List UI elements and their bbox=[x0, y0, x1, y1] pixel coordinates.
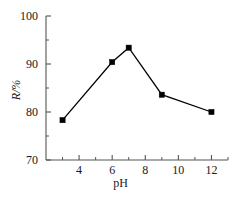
y-tick-label: 70 bbox=[0, 154, 38, 166]
data-series-line bbox=[63, 48, 212, 120]
svg-text:R/%: R/% bbox=[9, 80, 23, 102]
data-point-marker bbox=[110, 59, 115, 64]
x-tick-label: 12 bbox=[191, 164, 231, 176]
data-point-marker bbox=[209, 109, 214, 114]
y-tick-label: 100 bbox=[0, 10, 38, 22]
data-point-marker bbox=[159, 92, 164, 97]
data-series-markers bbox=[60, 45, 214, 123]
data-point-marker bbox=[60, 118, 65, 123]
x-axis-major-ticks bbox=[79, 155, 211, 160]
chart-figure: 708090100 4681012 R/% pH bbox=[0, 0, 241, 198]
x-axis-title: pH bbox=[0, 177, 241, 189]
y-axis-title: R/% bbox=[8, 60, 28, 120]
data-point-marker bbox=[126, 45, 131, 50]
axes-group bbox=[46, 16, 228, 160]
